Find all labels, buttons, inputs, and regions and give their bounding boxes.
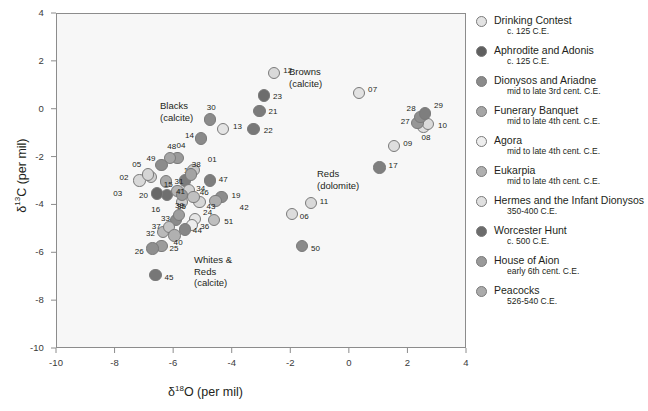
data-point-label-49: 49 [146,154,155,163]
data-point-label-48: 48 [167,142,176,151]
x-axis-title: δ18O (per mil) [168,384,243,399]
data-point-label-09: 09 [403,139,412,148]
legend-item-agora[interactable]: Agoramid to late 4th cent. C.E. [476,134,648,160]
legend-date: mid to late 4th cent. C.E. [507,116,648,127]
legend-date: c. 500 C.E. [507,236,648,247]
y-tick-label: -6 [18,246,44,257]
y-tick-label: -4 [18,198,44,209]
data-point-29[interactable] [419,107,431,119]
legend-swatch-icon [476,256,487,267]
y-tick-label: -2 [18,151,44,162]
data-point-label-06: 06 [300,212,309,221]
y-tick-label: -8 [18,294,44,305]
data-point-label-05: 05 [132,160,141,169]
data-point-label-22: 22 [264,126,273,135]
legend-date: 350-400 C.E. [507,206,648,217]
legend-item-house-of-aion[interactable]: House of Aionearly 6th cent. C.E. [476,254,648,280]
legend-swatch-icon [476,46,487,57]
data-point-label-45: 45 [165,273,174,282]
legend-label: Agora [494,134,648,146]
legend-swatch-icon [476,226,487,237]
legend-item-eukarpia[interactable]: Eukarpiamid to late 4th cent. C.E. [476,164,648,190]
data-point-label-16: 16 [151,205,160,214]
group-label-blacks: Blacks (calcite) [160,100,193,123]
data-point-label-23: 23 [273,92,282,101]
data-point-label-07: 07 [368,85,377,94]
legend-swatch-icon [476,166,487,177]
data-point-label-50: 50 [311,244,320,253]
legend-label: Eukarpia [494,164,648,176]
legend-swatch-icon [476,106,487,117]
legend-item-drinking-contest[interactable]: Drinking Contestc. 125 C.E. [476,14,648,40]
chart-figure: δ18O (per mil) δ13C (per mil) 420-2-4-6-… [0,0,648,411]
data-point-label-47: 47 [219,175,228,184]
plot-area [56,13,466,348]
data-point-label-17: 17 [389,161,398,170]
legend-label: Peacocks [494,284,648,296]
data-point-label-42: 42 [240,203,249,212]
legend-item-peacocks[interactable]: Peacocks526-540 C.E. [476,284,648,310]
legend-swatch-icon [476,136,487,147]
data-point-14[interactable] [195,132,207,144]
legend-label: Aphrodite and Adonis [494,44,648,56]
data-point-label-39: 39 [175,201,184,210]
x-tick-label: -10 [43,357,69,368]
data-point-45[interactable] [149,269,161,281]
x-tick-label: 4 [453,357,479,368]
data-point-44[interactable] [179,223,191,235]
legend: Drinking Contestc. 125 C.E.Aphrodite and… [476,14,648,314]
legend-label: Worcester Hunt [494,224,648,236]
data-point-label-27: 27 [401,117,410,126]
x-tick-label: 2 [394,357,420,368]
data-point-label-37: 37 [152,222,161,231]
data-point-17[interactable] [373,161,385,173]
data-point-21[interactable] [253,105,265,117]
data-point-label-30: 30 [207,103,216,112]
data-point-30[interactable] [204,113,216,125]
x-tick-label: -2 [277,357,303,368]
legend-item-worcester-hunt[interactable]: Worcester Huntc. 500 C.E. [476,224,648,250]
data-point-label-08: 08 [422,133,431,142]
data-point-06[interactable] [286,208,298,220]
legend-swatch-icon [476,16,487,27]
legend-item-funerary-banquet[interactable]: Funerary Banquetmid to late 4th cent. C.… [476,104,648,130]
data-point-26[interactable] [146,242,158,254]
data-point-label-31: 31 [175,177,184,186]
y-tick-label: 4 [18,7,44,18]
data-point-label-01: 01 [208,155,217,164]
data-point-38[interactable] [185,168,197,180]
data-point-label-20: 20 [139,191,148,200]
legend-date: mid to late 3rd cent. C.E. [507,86,648,97]
data-point-22[interactable] [247,123,259,135]
legend-label: Drinking Contest [494,14,648,26]
data-point-label-13: 13 [233,122,242,131]
x-tick-label: -6 [160,357,186,368]
legend-item-aphrodite-and-adonis[interactable]: Aphrodite and Adonisc. 125 C.E. [476,44,648,70]
group-label-reds: Reds (dolomite) [317,168,359,191]
data-point-20[interactable] [151,187,163,199]
data-point-label-38: 38 [192,160,201,169]
legend-date: mid to late 4th cent. C.E. [507,146,648,157]
data-point-label-10: 10 [438,121,447,130]
legend-label: Funerary Banquet [494,104,648,116]
data-point-label-29: 29 [434,101,443,110]
y-tick-label: -10 [18,342,44,353]
legend-label: Hermes and the Infant Dionysos [494,194,648,206]
legend-swatch-icon [476,286,487,297]
data-point-label-04: 04 [177,141,186,150]
data-point-label-51: 51 [224,217,233,226]
legend-item-dionysos-and-ariadne[interactable]: Dionysos and Ariadnemid to late 3rd cent… [476,74,648,100]
data-point-23[interactable] [258,89,270,101]
group-label-whites-reds: Whites & Reds (calcite) [194,254,232,289]
y-axis-title: δ13C (per mil) [13,111,28,241]
data-point-05[interactable] [142,168,154,180]
data-point-49[interactable] [155,159,167,171]
legend-swatch-icon [476,76,487,87]
data-point-label-11: 11 [320,197,329,206]
data-point-47[interactable] [204,174,216,186]
data-point-label-02: 02 [119,173,128,182]
legend-swatch-icon [476,196,487,207]
legend-item-hermes-and-the-infant-dionysos[interactable]: Hermes and the Infant Dionysos350-400 C.… [476,194,648,220]
data-point-label-21: 21 [269,107,278,116]
group-label-browns: Browns (calcite) [289,66,322,89]
